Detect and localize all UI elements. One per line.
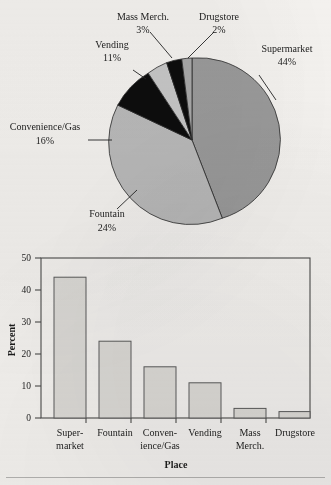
xtick-label-supermarket-line1: Super- — [57, 427, 83, 438]
y-axis-title: Percent — [6, 323, 17, 356]
pie-chart-figure: Mass Merch. 3% Drugstore 2% Vending 11% … — [0, 0, 331, 240]
ytick-label-20: 20 — [22, 349, 32, 359]
ytick-label-40: 40 — [22, 285, 32, 295]
figure-page: Mass Merch. 3% Drugstore 2% Vending 11% … — [0, 0, 331, 485]
pie-label-mass-merch-pct: 3% — [136, 24, 149, 35]
pie-label-supermarket-name: Supermarket — [261, 43, 312, 54]
pie-label-drugstore-name: Drugstore — [199, 11, 240, 22]
xtick-label-mass-merch-line1: Mass — [239, 427, 260, 438]
bar-supermarket — [54, 277, 86, 418]
xtick-label-mass-merch-line2: Merch. — [236, 440, 265, 451]
xtick-label-convenience-gas-line2: ience/Gas — [140, 440, 180, 451]
bar-convenience-gas — [144, 367, 176, 418]
xtick-label-fountain-line1: Fountain — [97, 427, 133, 438]
pie-label-mass-merch-name: Mass Merch. — [117, 11, 169, 22]
pie-label-supermarket-pct: 44% — [278, 56, 296, 67]
pie-label-convenience-gas-name: Convenience/Gas — [10, 121, 81, 132]
ytick-label-30: 30 — [22, 317, 32, 327]
pie-label-convenience-gas-pct: 16% — [36, 135, 54, 146]
xtick-label-supermarket-line2: market — [56, 440, 84, 451]
leader-line-vending — [133, 70, 146, 79]
pie-label-fountain-pct: 24% — [98, 222, 116, 233]
pie-label-vending-name: Vending — [95, 39, 128, 50]
xtick-label-drugstore-line1: Drugstore — [275, 427, 316, 438]
bar-chart-figure: 0 10 20 30 40 50 Percent Super- market — [0, 240, 331, 485]
ytick-label-0: 0 — [26, 413, 31, 423]
bar-chart-svg: 0 10 20 30 40 50 Percent Super- market — [0, 240, 331, 485]
bar-fountain — [99, 341, 131, 418]
pie-chart-svg: Mass Merch. 3% Drugstore 2% Vending 11% … — [0, 0, 331, 240]
bar-mass-merch — [234, 408, 266, 418]
leader-line-drugstore — [188, 32, 214, 58]
x-axis-title: Place — [165, 459, 188, 470]
xtick-label-vending-line1: Vending — [188, 427, 221, 438]
bar-drugstore — [279, 412, 310, 418]
pie-label-fountain-name: Fountain — [89, 208, 125, 219]
bar-vending — [189, 383, 221, 418]
pie-label-drugstore-pct: 2% — [212, 24, 225, 35]
ytick-label-50: 50 — [22, 253, 32, 263]
xtick-label-convenience-gas-line1: Conven- — [143, 427, 177, 438]
pie-label-vending-pct: 11% — [103, 52, 121, 63]
leader-line-mass-merch — [150, 32, 172, 58]
page-bottom-rule — [6, 477, 325, 478]
ytick-label-10: 10 — [22, 381, 32, 391]
